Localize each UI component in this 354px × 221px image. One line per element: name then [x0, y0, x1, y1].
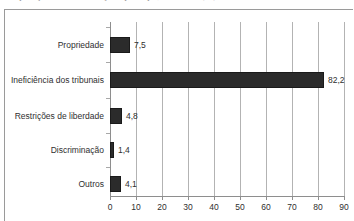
x-tick-label-10: 10	[131, 202, 140, 212]
gridline-60	[266, 22, 267, 196]
bar[interactable]	[110, 108, 122, 124]
x-tick-label-90: 90	[339, 202, 348, 212]
x-tick-label-60: 60	[261, 202, 270, 212]
gridline-90	[344, 22, 345, 196]
bar-value-label: 82,2	[328, 75, 345, 85]
category-label: Restrições de liberdade	[15, 111, 104, 121]
x-tick-label-50: 50	[235, 202, 244, 212]
bar-value-label: 7,5	[134, 40, 146, 50]
gridline-80	[318, 22, 319, 196]
gridline-50	[240, 22, 241, 196]
bar-value-label: 4,8	[126, 111, 138, 121]
x-tick-label-40: 40	[209, 202, 218, 212]
x-tick-label-0: 0	[108, 202, 113, 212]
gridline-20	[162, 22, 163, 196]
category-label: Ineficiência dos tribunais	[11, 75, 104, 85]
x-tick-label-30: 30	[183, 202, 192, 212]
gridline-70	[292, 22, 293, 196]
bar[interactable]	[110, 37, 130, 53]
category-label: Outros	[78, 179, 104, 189]
x-tick-label-70: 70	[287, 202, 296, 212]
bar-value-label: 4,1	[125, 179, 137, 189]
bar[interactable]	[110, 142, 114, 158]
category-label: Propriedade	[58, 40, 104, 50]
x-axis-line	[110, 196, 345, 197]
category-label: Discriminação	[51, 145, 104, 155]
x-tick-label-80: 80	[313, 202, 322, 212]
gridline-30	[188, 22, 189, 196]
gridline-40	[214, 22, 215, 196]
bar-value-label: 1,4	[118, 145, 130, 155]
bar[interactable]	[110, 176, 121, 192]
bar[interactable]	[110, 72, 324, 88]
bar-chart-plot-area: PropriedadeIneficiência dos tribunaisRes…	[0, 0, 354, 221]
x-tick-label-20: 20	[157, 202, 166, 212]
